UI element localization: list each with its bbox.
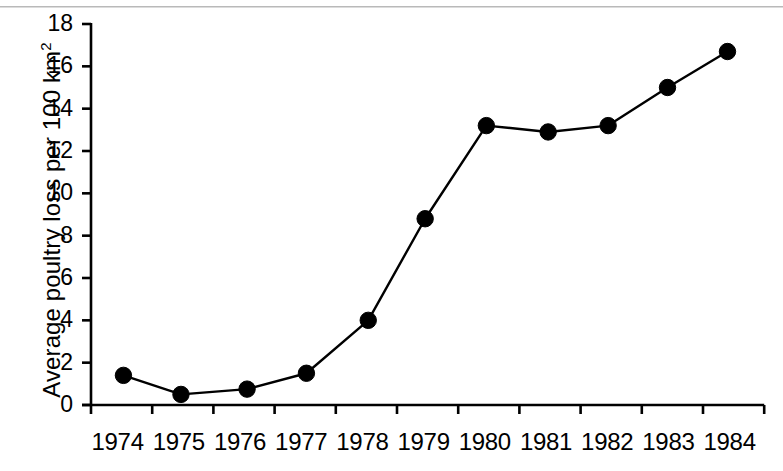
x-axis-tick-label: 1984	[695, 430, 765, 454]
plot-area	[0, 0, 783, 471]
y-axis-tick-label: 4	[33, 308, 73, 331]
data-point-marker	[360, 312, 376, 328]
x-axis-tick-label: 1974	[83, 430, 153, 454]
x-axis-tick-label: 1977	[266, 430, 336, 454]
x-axis-tick-label: 1980	[450, 430, 520, 454]
x-axis-tick-label: 1983	[633, 430, 703, 454]
data-point-marker	[600, 117, 616, 133]
data-point-marker	[540, 124, 556, 140]
data-point-marker	[417, 211, 433, 227]
data-point-marker	[115, 367, 131, 383]
y-axis-tick-label: 8	[33, 224, 73, 247]
x-axis-tick-label: 1981	[511, 430, 581, 454]
x-axis-tick-label: 1979	[389, 430, 459, 454]
data-point-marker	[719, 43, 735, 59]
y-axis-tick-label: 14	[33, 97, 73, 120]
y-axis-tick-label: 12	[33, 139, 73, 162]
chart-figure: Average poultry loss per 100 km2 0246810…	[0, 0, 783, 471]
y-axis-tick-label: 6	[33, 266, 73, 289]
data-point-marker	[239, 381, 255, 397]
data-point-marker	[298, 365, 314, 381]
y-axis-tick-label: 2	[33, 351, 73, 374]
y-axis-tick-label: 0	[33, 393, 73, 416]
y-axis-tick-label: 16	[33, 54, 73, 77]
y-axis-tick-label: 18	[33, 12, 73, 35]
data-point-marker	[659, 79, 675, 95]
y-axis-tick-label: 10	[33, 181, 73, 204]
data-point-marker	[478, 117, 494, 133]
x-axis-tick-label: 1978	[327, 430, 397, 454]
x-axis-tick-label: 1982	[572, 430, 642, 454]
x-axis-tick-label: 1975	[144, 430, 214, 454]
data-point-marker	[173, 386, 189, 402]
x-axis-tick-label: 1976	[205, 430, 275, 454]
